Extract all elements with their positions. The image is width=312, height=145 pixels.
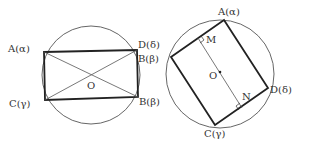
- diagonal-DC: [45, 50, 137, 100]
- right-figure: A(α) B(β) C(γ) D(δ) O M N: [138, 6, 292, 139]
- left-figure: A(α) D(δ) B(β) C(γ) O: [7, 26, 160, 124]
- label-C-right: C(γ): [204, 128, 226, 139]
- label-B-right: B(β): [138, 53, 159, 64]
- label-O-right: O: [209, 70, 217, 81]
- label-D-right: D(δ): [270, 84, 292, 95]
- label-B-left: B(β): [139, 96, 160, 107]
- label-D-left: D(δ): [138, 39, 160, 50]
- label-M: M: [206, 34, 216, 45]
- diagram-canvas: A(α) D(δ) B(β) C(γ) O A(α) B(β) C(γ) D(δ…: [0, 0, 312, 145]
- label-A-right: A(α): [217, 6, 240, 17]
- label-N: N: [242, 91, 251, 102]
- label-C-left: C(γ): [9, 98, 31, 109]
- label-O-left: O: [87, 80, 95, 91]
- center-point-O: [219, 71, 222, 74]
- label-A-left: A(α): [7, 43, 30, 54]
